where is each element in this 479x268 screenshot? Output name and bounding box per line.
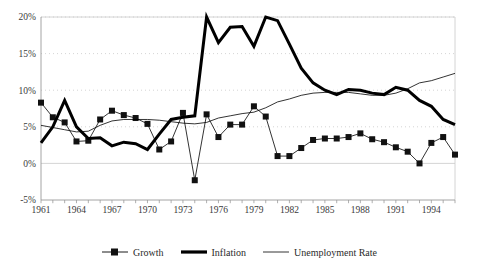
data-point-marker (109, 108, 115, 114)
data-point-marker (121, 112, 127, 118)
y-tick-label: 15% (19, 49, 37, 59)
data-point-marker (310, 137, 316, 143)
x-tick-label: 1979 (244, 205, 263, 215)
y-tick-label: 5% (23, 122, 36, 132)
growth-series-swatch-icon (102, 247, 128, 257)
unemployment-series-swatch-icon (263, 247, 289, 257)
data-point-marker (156, 146, 162, 152)
data-point-marker (393, 144, 399, 150)
x-tick-label: 1973 (173, 205, 192, 215)
chart-canvas: -5%0%5%10%15%20%196119641967197019731976… (0, 0, 479, 225)
data-point-marker (144, 121, 150, 127)
data-point-marker (357, 130, 363, 136)
data-point-marker (38, 100, 44, 106)
x-tick-label: 1964 (67, 205, 86, 215)
data-point-marker (322, 136, 328, 142)
data-point-marker (417, 160, 423, 166)
data-point-marker (204, 111, 210, 117)
legend-label-unemployment-rate: Unemployment Rate (294, 247, 377, 258)
data-point-marker (227, 122, 233, 128)
data-point-marker (298, 145, 304, 151)
data-point-marker (133, 115, 139, 121)
data-point-marker (263, 114, 269, 120)
y-tick-label: 10% (19, 86, 37, 96)
data-point-marker (334, 136, 340, 142)
series-line-unemployment-rate (41, 73, 455, 132)
data-point-marker (168, 138, 174, 144)
economic-indicators-chart: -5%0%5%10%15%20%196119641967197019731976… (0, 0, 479, 268)
data-point-marker (275, 153, 281, 159)
data-point-marker (180, 110, 186, 116)
inflation-series-swatch-icon (181, 247, 207, 257)
y-tick-label: -5% (20, 195, 36, 205)
data-point-marker (428, 140, 434, 146)
data-point-marker (381, 139, 387, 145)
plot-area: -5%0%5%10%15%20%196119641967197019731976… (0, 0, 479, 225)
legend-label-inflation: Inflation (212, 247, 246, 258)
legend-item-inflation: Inflation (181, 247, 246, 258)
data-point-marker (251, 103, 257, 109)
x-tick-label: 1961 (32, 205, 51, 215)
x-tick-label: 1991 (386, 205, 405, 215)
y-tick-label: 0% (23, 159, 36, 169)
data-point-marker (405, 149, 411, 155)
data-point-marker (452, 152, 458, 158)
x-tick-label: 1970 (138, 205, 157, 215)
data-point-marker (239, 122, 245, 128)
x-tick-label: 1994 (422, 205, 441, 215)
legend-label-growth: Growth (133, 247, 164, 258)
data-point-marker (286, 153, 292, 159)
x-tick-label: 1976 (209, 205, 228, 215)
data-point-marker (192, 177, 198, 183)
x-tick-label: 1967 (102, 205, 121, 215)
data-point-marker (62, 119, 68, 125)
data-point-marker (369, 136, 375, 142)
series-line-inflation (41, 17, 455, 149)
legend-item-growth: Growth (102, 247, 164, 258)
chart-legend: Growth Inflation Unemployment Rate (0, 240, 479, 264)
data-point-marker (73, 138, 79, 144)
data-point-marker (215, 134, 221, 140)
x-tick-label: 1988 (351, 205, 370, 215)
data-point-marker (97, 116, 103, 122)
legend-item-unemployment-rate: Unemployment Rate (263, 247, 377, 258)
x-tick-label: 1985 (315, 205, 334, 215)
data-point-marker (440, 134, 446, 140)
y-tick-label: 20% (19, 12, 37, 22)
data-point-marker (346, 134, 352, 140)
x-tick-label: 1982 (280, 205, 299, 215)
